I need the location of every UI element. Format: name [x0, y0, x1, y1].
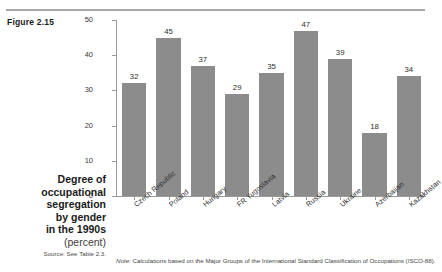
y-tick-label: 0: [89, 191, 93, 200]
bar-value-label: 37: [198, 55, 207, 64]
bar-chart: 01020304050 324537293547391834 Czech Rep…: [96, 14, 428, 254]
y-tick-mark: [112, 196, 117, 197]
figure-caption: Degree of occupational segregation by ge…: [4, 173, 106, 258]
bar-group: 39: [328, 20, 352, 196]
bar-value-label: 32: [130, 72, 139, 81]
y-tick: 0: [96, 196, 117, 197]
bar-group: 35: [259, 20, 283, 196]
bar-value-label: 39: [336, 48, 345, 57]
figure-note: Note: Calculations based on the Major Gr…: [116, 257, 436, 265]
y-tick-label: 40: [85, 50, 93, 59]
bar-value-label: 35: [267, 62, 276, 71]
y-tick: 30: [96, 90, 117, 91]
bar: [191, 66, 215, 196]
bar: [362, 133, 386, 196]
caption-line-5: in the 1990s: [4, 223, 106, 236]
y-tick-label: 30: [85, 85, 93, 94]
bar-value-label: 47: [301, 20, 310, 29]
y-tick: 50: [96, 20, 117, 21]
caption-line-1: Degree of: [4, 173, 106, 186]
top-divider: [6, 9, 425, 11]
y-tick-label: 10: [85, 156, 93, 165]
bars-layer: 324537293547391834: [117, 20, 426, 196]
bar-group: 47: [294, 20, 318, 196]
y-tick-label: 50: [85, 15, 93, 24]
note-prefix: Note:: [116, 257, 131, 264]
bar-group: 37: [191, 20, 215, 196]
bar-value-label: 29: [233, 83, 242, 92]
bar-value-label: 18: [370, 122, 379, 131]
figure-source: Source: See Table 2.3.: [4, 250, 106, 258]
y-tick: 40: [96, 55, 117, 56]
y-tick-label: 20: [85, 121, 93, 130]
figure-number: Figure 2.15: [7, 17, 54, 27]
bar-value-label: 45: [164, 27, 173, 36]
bar-group: 29: [225, 20, 249, 196]
caption-unit: (percent): [4, 236, 106, 249]
bar: [294, 31, 318, 196]
bar: [225, 94, 249, 196]
bar: [328, 59, 352, 196]
y-tick: 10: [96, 161, 117, 162]
bar-group: 18: [362, 20, 386, 196]
caption-line-4: by gender: [4, 211, 106, 224]
caption-line-3: segregation: [4, 198, 106, 211]
note-text: Calculations based on the Major Groups o…: [133, 257, 436, 264]
bar-group: 34: [397, 20, 421, 196]
bar: [397, 76, 421, 196]
y-tick: 20: [96, 126, 117, 127]
bar-group: 32: [122, 20, 146, 196]
bar-value-label: 34: [404, 65, 413, 74]
bar: [122, 83, 146, 196]
